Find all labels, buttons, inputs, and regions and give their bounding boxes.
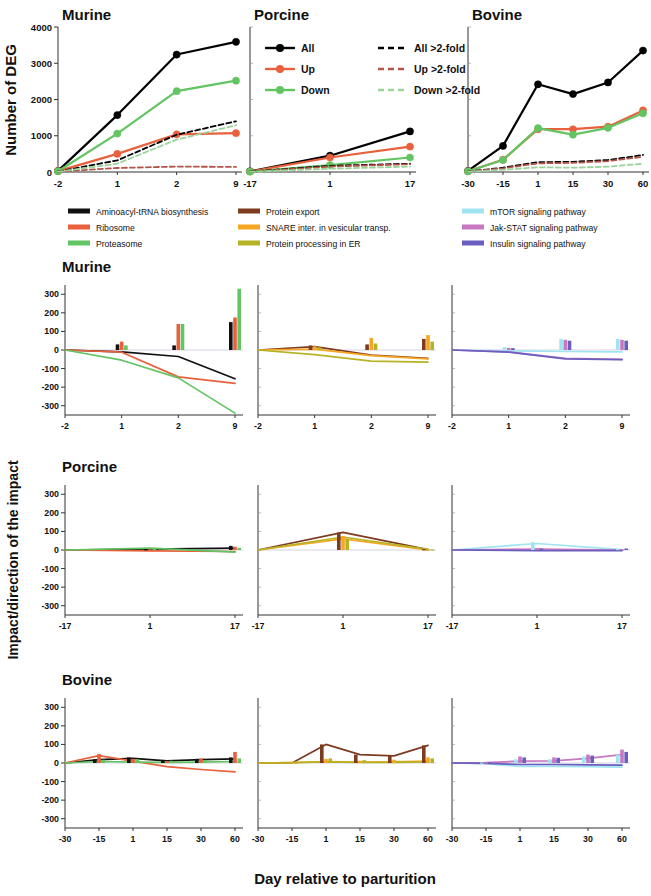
chart-impact-porcine-transport: -17117 [252,485,436,631]
deg-legend-label: Up [301,63,315,75]
pathway-legend-label: mTOR signaling pathway [490,207,587,217]
pathway-legend-item: mTOR signaling pathway [462,207,587,217]
deg-legend-label: Down [301,84,330,96]
data-point [114,130,121,137]
impact-bar [556,758,560,763]
impact-bar [177,324,181,350]
impact-bar [426,335,430,350]
chart-impact-porcine-signaling: -17117 [446,485,630,631]
y-tick-label: 100 [44,326,59,336]
x-tick-label: 2 [369,421,374,431]
impact-bar [144,549,148,550]
x-tick-label: 60 [638,178,649,189]
data-point [604,79,611,86]
y-tick-label: -300 [41,401,59,411]
legend-color-swatch [68,225,90,230]
x-tick-label: 1 [115,178,121,189]
impact-bar [362,760,366,763]
x-tick-label: -15 [496,178,510,189]
impact-bar [152,549,156,551]
pathway-legend-item: Ribosome [68,223,135,233]
chart-impact-bovine-translation: -300-200-1000100200300-30-151153060 [41,698,243,844]
x-tick-label: -30 [252,834,265,844]
impact-bar [624,752,628,763]
x-tick-label: 30 [196,834,206,844]
data-point [326,154,333,161]
data-point [232,38,239,45]
impact-y-axis-title: Impact/direction of the impact [5,460,21,659]
x-tick-label: 30 [603,178,614,189]
y-tick-label: 0 [54,545,59,555]
series-line [258,744,428,763]
pathway-legend-item: Proteasome [68,239,143,249]
pathway-legend-item: Jak-STAT signaling pathway [462,223,598,233]
impact-bar [616,755,620,763]
series-line [65,350,235,413]
x-tick-label: -2 [448,421,456,431]
impact-bar [624,549,628,551]
deg-row: Murine01000200030004000-2129Porcine-1711… [31,6,649,189]
y-tick-label: -100 [41,777,59,787]
impact-bar [430,549,434,550]
pathway-legend-label: Ribosome [96,223,135,233]
y-tick-label: 100 [44,739,59,749]
data-point [173,51,180,58]
impact-bar [172,345,176,350]
x-tick-label: 1 [535,621,540,631]
impact-bar [488,762,492,763]
data-point [232,130,239,137]
figure-root: Murine01000200030004000-2129Porcine-1711… [0,0,651,896]
panel-title: Murine [62,6,111,23]
panel-title: Bovine [472,6,522,23]
impact-bar [229,757,233,763]
pathway-legend-item: SNARE inter. in vesicular transp. [238,223,391,233]
impact-bar [374,344,378,351]
impact-bar [324,759,328,763]
y-tick-label: 300 [44,702,59,712]
pathway-legend-label: Protein processing in ER [266,239,361,249]
data-point [406,143,413,150]
impact-bar [616,549,620,550]
impact-bar [422,339,426,350]
x-tick-label: -30 [461,178,475,189]
x-tick-label: -30 [59,834,72,844]
legend-color-swatch [462,241,484,246]
panel-title: Porcine [254,6,309,23]
impact-bar [97,754,101,763]
chart-impact-murine-translation: -300-200-1000100200300-2129 [41,285,243,431]
impact-bar [620,340,624,350]
legend-swatch-marker [276,65,284,73]
deg-legend: AllUpDownAll >2-foldUp >2-foldDown >2-fo… [265,42,480,96]
x-tick-label: -17 [252,621,265,631]
data-point [639,110,646,117]
x-tick-label: 1 [324,834,329,844]
impact-bar [564,340,568,350]
legend-swatch-marker [276,44,284,52]
legend-swatch-marker [276,86,284,94]
impact-bar [620,750,624,763]
pathway-legend-item: Protein processing in ER [238,239,361,249]
chart-impact-bovine-signaling: -30-151153060 [446,698,630,844]
impact-bar [430,758,434,763]
impact-bar [345,539,349,550]
deg-legend-item: Up >2-fold [378,63,466,75]
top-y-axis-title: Number of DEG [2,44,19,156]
impact-bar [135,759,139,763]
deg-legend-item: All >2-fold [378,42,465,54]
x-axis-title: Day relative to parturition [254,870,436,887]
impact-bar [514,759,518,763]
impact-bar [539,549,543,551]
impact-bar [426,757,430,763]
x-tick-label: 1 [518,834,523,844]
x-tick-label: -17 [59,621,72,631]
x-tick-label: 60 [617,834,627,844]
deg-legend-label: Down >2-fold [414,84,480,96]
series-line [468,164,643,172]
x-tick-label: 2 [174,178,179,189]
x-tick-label: -30 [446,834,459,844]
impact-bar [237,548,241,550]
impact-bar [120,342,124,350]
deg-legend-label: All [301,42,315,54]
impact-bar [294,762,298,763]
impact-bar [317,347,321,350]
